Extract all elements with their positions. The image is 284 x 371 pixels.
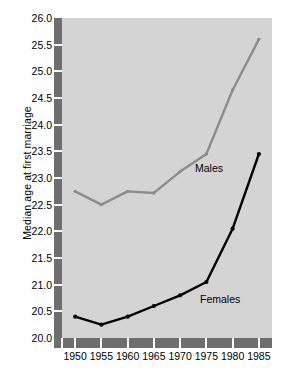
data-point: [257, 38, 260, 41]
x-tick-mark: [153, 338, 155, 348]
data-point: [231, 227, 235, 231]
y-tick-mark: [54, 150, 62, 152]
line-males: [75, 39, 259, 204]
plot-area: Males Females: [62, 18, 272, 338]
x-axis-tick-labels: 19501955196019651970197519801985: [0, 350, 284, 368]
y-tick-label: 21.0: [16, 280, 52, 290]
y-tick-mark: [54, 230, 62, 232]
y-tick-mark: [54, 97, 62, 99]
data-point: [178, 293, 182, 297]
y-tick-mark: [54, 284, 62, 286]
data-point: [257, 152, 261, 156]
y-tick-mark: [54, 257, 62, 259]
y-tick-label: 24.0: [16, 120, 52, 130]
x-tick-mark: [127, 338, 129, 348]
y-tick-label: 25.0: [16, 66, 52, 76]
x-tick-label: 1985: [239, 350, 279, 362]
x-tick-mark: [232, 338, 234, 348]
y-tick-label: 25.5: [16, 40, 52, 50]
y-tick-mark: [54, 70, 62, 72]
series-label-females: Females: [200, 293, 240, 305]
y-tick-label: 20.5: [16, 306, 52, 316]
data-point: [152, 191, 155, 194]
data-point: [231, 88, 234, 91]
y-tick-label: 23.0: [16, 173, 52, 183]
y-tick-label: 24.5: [16, 93, 52, 103]
y-tick-label: 21.5: [16, 253, 52, 263]
x-tick-mark-origin: [61, 338, 63, 348]
x-tick-mark: [179, 338, 181, 348]
data-point: [126, 315, 130, 319]
series-lines: [62, 18, 272, 338]
x-tick-mark: [74, 338, 76, 348]
y-tick-mark: [54, 204, 62, 206]
x-tick-mark: [258, 338, 260, 348]
data-point: [126, 190, 129, 193]
x-tick-mark: [205, 338, 207, 348]
y-tick-mark: [54, 310, 62, 312]
data-point: [178, 170, 181, 173]
y-axis-tick-labels: 20.020.521.021.522.022.523.023.524.024.5…: [16, 0, 52, 371]
y-tick-label: 22.5: [16, 200, 52, 210]
y-tick-label: 20.0: [16, 333, 52, 343]
x-tick-mark: [100, 338, 102, 348]
y-axis-spine: [54, 18, 62, 338]
x-axis-spine: [54, 338, 272, 348]
data-point: [205, 152, 208, 155]
data-point: [152, 304, 156, 308]
data-point: [99, 323, 103, 327]
y-tick-mark: [54, 44, 62, 46]
y-tick-mark: [54, 124, 62, 126]
y-tick-label: 22.0: [16, 226, 52, 236]
data-point: [73, 315, 77, 319]
y-tick-label: 26.0: [16, 13, 52, 23]
data-point: [100, 203, 103, 206]
data-point: [204, 280, 208, 284]
y-tick-mark: [54, 177, 62, 179]
chart-figure: Median age at first marriage 20.020.521.…: [0, 0, 284, 371]
y-tick-label: 23.5: [16, 146, 52, 156]
series-label-males: Males: [195, 162, 223, 174]
data-point: [73, 190, 76, 193]
